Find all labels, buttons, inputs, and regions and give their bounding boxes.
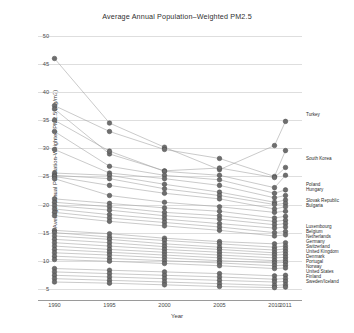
data-point: [162, 186, 167, 191]
data-point: [272, 210, 277, 215]
data-point: [217, 228, 222, 233]
label-group-korea: South Korea: [306, 156, 332, 161]
data-point: [162, 147, 167, 152]
data-point: [217, 197, 222, 202]
y-tick-45: 45: [23, 61, 49, 67]
data-point: [162, 283, 167, 288]
data-point: [217, 178, 222, 183]
series-line: [55, 256, 286, 266]
data-point: [217, 173, 222, 178]
data-point: [272, 191, 277, 196]
data-point: [52, 280, 57, 285]
label-group-western: LuxembourgBelgiumNetherlandsGermanySwitz…: [306, 224, 339, 284]
chart-title: Average Annual Population–Weighted PM2.5: [0, 12, 354, 21]
label-group-turkey: Turkey: [306, 112, 320, 117]
data-point: [162, 191, 167, 196]
data-point: [52, 147, 57, 152]
data-point: [162, 224, 167, 229]
data-point: [107, 121, 112, 126]
data-point: [217, 263, 222, 268]
series-line: [55, 272, 286, 279]
data-point: [107, 176, 112, 181]
data-point: [283, 233, 288, 238]
data-point: [107, 183, 112, 188]
plot-area: Average Annual Population-Weighted PM2.5…: [38, 36, 302, 300]
data-point: [272, 195, 277, 200]
data-point: [107, 193, 112, 198]
data-point: [107, 149, 112, 154]
data-point: [162, 200, 167, 205]
data-point: [272, 175, 277, 180]
series-line: [55, 279, 286, 286]
data-point: [52, 176, 57, 181]
data-point: [217, 166, 222, 171]
x-tick-2000: 2000: [145, 302, 185, 308]
data-point: [283, 173, 288, 178]
data-point: [217, 204, 222, 209]
series-label: Bulgaria: [306, 203, 339, 208]
data-point: [52, 213, 57, 218]
data-point: [162, 182, 167, 187]
y-tick-40: 40: [23, 89, 49, 95]
series-line: [55, 131, 286, 193]
series-line: [55, 175, 286, 204]
series-line: [55, 275, 286, 282]
data-point: [283, 285, 288, 290]
series-line: [55, 209, 286, 228]
data-point: [107, 164, 112, 169]
x-axis-title: Year: [0, 313, 354, 319]
data-point: [52, 107, 57, 112]
data-point: [52, 56, 57, 61]
chart-root: Average Annual Population–Weighted PM2.5…: [0, 0, 354, 333]
series-line: [55, 58, 286, 169]
y-tick-5: 5: [23, 286, 49, 292]
data-point: [217, 183, 222, 188]
y-tick-15: 15: [23, 230, 49, 236]
data-point: [217, 209, 222, 214]
data-point: [272, 202, 277, 207]
data-point: [52, 129, 57, 134]
data-point: [283, 225, 288, 230]
series-layer: [38, 36, 302, 300]
series-line: [55, 202, 286, 221]
series-line: [55, 179, 286, 213]
data-point: [283, 188, 288, 193]
y-tick-50: 50: [23, 33, 49, 39]
data-point: [272, 266, 277, 271]
x-tick-2005: 2005: [200, 302, 240, 308]
data-point: [162, 176, 167, 181]
data-point: [272, 185, 277, 190]
data-point: [107, 281, 112, 286]
data-point: [283, 193, 288, 198]
data-point: [272, 226, 277, 231]
x-axis-line: [38, 300, 302, 301]
data-point: [272, 234, 277, 239]
data-point: [272, 285, 277, 290]
data-point: [162, 206, 167, 211]
series-line: [55, 230, 286, 243]
data-point: [107, 129, 112, 134]
series-line: [55, 246, 286, 258]
data-point: [217, 156, 222, 161]
x-tick-1990: 1990: [35, 302, 75, 308]
y-tick-25: 25: [23, 173, 49, 179]
data-point: [272, 143, 277, 148]
series-line: [55, 106, 286, 177]
series-line: [55, 109, 286, 178]
series-label: Sweden/Iceland: [306, 279, 339, 284]
data-point: [283, 209, 288, 214]
data-point: [283, 148, 288, 153]
data-point: [107, 259, 112, 264]
series-line: [55, 239, 286, 252]
data-point: [217, 217, 222, 222]
data-point: [107, 219, 112, 224]
data-point: [217, 284, 222, 289]
y-tick-35: 35: [23, 117, 49, 123]
series-label: South Korea: [306, 156, 332, 161]
x-tick-1995: 1995: [90, 302, 130, 308]
series-label: Turkey: [306, 112, 320, 117]
data-point: [283, 119, 288, 124]
data-point: [107, 208, 112, 213]
label-group-slovak: Slovak RepublicBulgaria: [306, 198, 339, 208]
y-tick-20: 20: [23, 202, 49, 208]
